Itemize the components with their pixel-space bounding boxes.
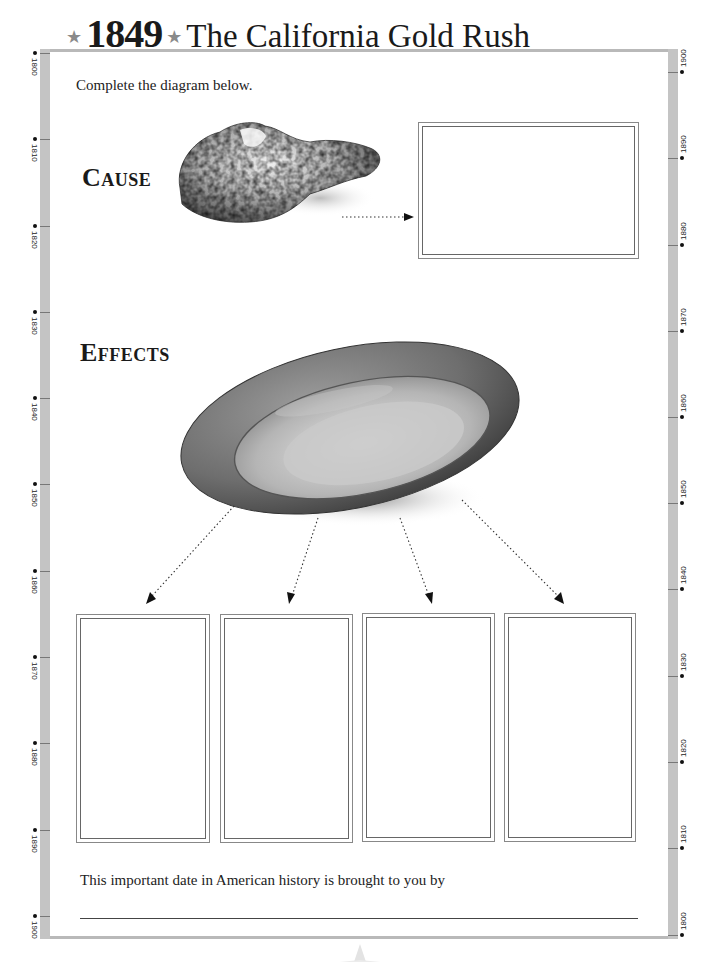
effect-answer-box-1[interactable]	[76, 614, 210, 843]
tick-mark	[668, 245, 678, 246]
page-title: ★ 1849 ★ The California Gold Rush	[62, 14, 530, 54]
tick-mark	[668, 417, 678, 418]
tick-dot	[680, 587, 684, 591]
timeline-label: 1870	[679, 308, 688, 326]
timeline-label: 1830	[679, 653, 688, 671]
timeline-label: 1840	[30, 403, 39, 421]
timeline-label: 1850	[679, 480, 688, 498]
tick-dot	[33, 655, 37, 659]
timeline-label: 1890	[30, 835, 39, 853]
signature-line[interactable]	[80, 918, 638, 919]
timeline-label: 1820	[679, 739, 688, 757]
tick-dot	[33, 482, 37, 486]
tick-dot	[33, 396, 37, 400]
timeline-label: 1850	[30, 489, 39, 507]
timeline-label: 1800	[679, 912, 688, 930]
timeline-label: 1900	[30, 921, 39, 939]
tick-dot	[680, 501, 684, 505]
tick-dot	[33, 828, 37, 832]
tick-dot	[680, 933, 684, 937]
footer-text: This important date in American history …	[80, 872, 445, 889]
timeline-label: 1860	[679, 394, 688, 412]
tick-dot	[680, 70, 684, 74]
timeline-label: 1900	[679, 49, 688, 67]
tick-mark	[668, 331, 678, 332]
star-icon: ★	[166, 26, 182, 47]
tick-mark	[40, 398, 50, 399]
arrowhead-icon	[146, 592, 156, 604]
tick-mark	[40, 484, 50, 485]
tick-dot	[33, 137, 37, 141]
tick-dot	[33, 569, 37, 573]
tick-mark	[40, 743, 50, 744]
gold-pan-illustration	[170, 328, 530, 528]
tick-dot	[33, 914, 37, 918]
tick-mark	[668, 676, 678, 677]
tick-mark	[40, 916, 50, 917]
tick-dot	[33, 224, 37, 228]
timeline-label: 1880	[679, 222, 688, 240]
tick-mark	[668, 589, 678, 590]
timeline-bar-right	[668, 49, 678, 939]
tick-mark	[668, 935, 678, 936]
tick-mark	[40, 830, 50, 831]
frame-bottom-border	[40, 936, 678, 939]
tick-dot	[680, 760, 684, 764]
timeline-label: 1870	[30, 662, 39, 680]
tick-mark	[40, 226, 50, 227]
effects-label: Effects	[80, 338, 170, 368]
tick-dot	[680, 846, 684, 850]
tick-mark	[668, 158, 678, 159]
arrowhead-icon	[425, 592, 433, 604]
timeline-label: 1840	[679, 566, 688, 584]
timeline-label: 1890	[679, 135, 688, 153]
tick-dot	[33, 310, 37, 314]
tick-dot	[680, 156, 684, 160]
tick-dot	[680, 674, 684, 678]
cause-answer-box[interactable]	[418, 122, 639, 259]
effect-answer-box-4[interactable]	[504, 613, 636, 842]
tick-mark	[40, 53, 50, 54]
tick-mark	[40, 657, 50, 658]
timeline-label: 1830	[30, 317, 39, 335]
title-year: 1849	[86, 14, 162, 54]
effect-answer-box-2[interactable]	[220, 614, 353, 843]
tick-mark	[668, 762, 678, 763]
instructions-text: Complete the diagram below.	[76, 77, 252, 94]
star-icon: ★	[66, 26, 82, 47]
timeline-label: 1800	[30, 58, 39, 76]
cause-arrow	[340, 211, 420, 223]
tick-mark	[668, 848, 678, 849]
timeline-label: 1810	[30, 144, 39, 162]
frame-top-border	[40, 49, 678, 52]
cause-label: Cause	[82, 163, 151, 193]
effect-arrows	[140, 500, 580, 610]
timeline-label: 1820	[30, 231, 39, 249]
timeline-label: 1860	[30, 576, 39, 594]
tick-mark	[668, 72, 678, 73]
tick-mark	[668, 503, 678, 504]
tick-mark	[40, 571, 50, 572]
tick-dot	[33, 51, 37, 55]
star-icon	[330, 940, 390, 962]
tick-mark	[40, 139, 50, 140]
effect-answer-box-3[interactable]	[362, 613, 495, 842]
timeline-label: 1880	[30, 748, 39, 766]
tick-dot	[33, 741, 37, 745]
arrowhead-icon	[287, 592, 295, 604]
timeline-label: 1810	[679, 825, 688, 843]
tick-mark	[40, 312, 50, 313]
tick-dot	[680, 415, 684, 419]
tick-dot	[680, 243, 684, 247]
timeline-bar-left	[40, 49, 50, 939]
tick-dot	[680, 329, 684, 333]
